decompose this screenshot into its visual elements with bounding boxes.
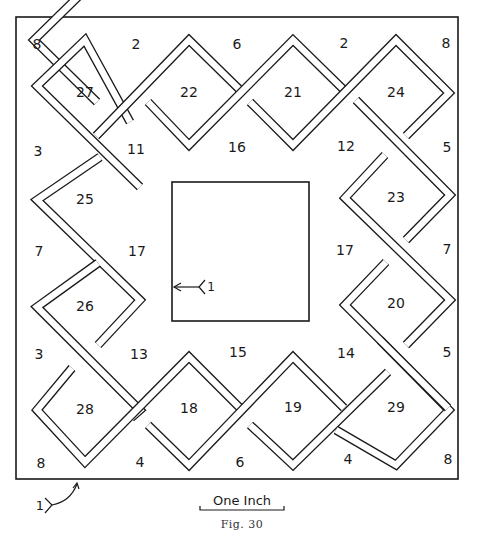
diamond-label: 29 [387,399,405,415]
region-label: 11 [127,141,145,157]
region-label: 14 [337,345,355,361]
maze-figure: 272221242526282320291819 826283111612571… [0,0,483,542]
region-label: 17 [336,242,354,258]
region-label: 8 [33,36,42,52]
diamond-labels: 272221242526282320291819 [76,84,405,417]
region-label: 13 [130,346,148,362]
region-label: 7 [35,243,44,259]
region-label: 7 [443,241,452,257]
region-label: 8 [444,451,453,467]
goal-arrow-icon [174,280,205,294]
region-label: 15 [229,344,247,360]
region-label: 6 [236,454,245,470]
central-square [172,182,309,321]
region-label: 5 [443,139,452,155]
entrance-marker-label: 1 [36,498,44,513]
diamond-label: 22 [180,84,198,100]
region-label: 4 [344,451,353,467]
diamond-label: 24 [387,84,405,100]
diamond-label: 27 [76,84,94,100]
region-label: 2 [132,36,141,52]
region-label: 3 [34,143,43,159]
region-label: 6 [233,36,242,52]
diamond-label: 21 [284,84,302,100]
scale-bar-label: One Inch [213,493,271,508]
hedge-strands [34,0,450,465]
region-label: 4 [136,454,145,470]
diamond-label: 19 [284,399,302,415]
goal-marker-label: 1 [207,280,215,294]
figure-caption: Fig. 30 [221,518,264,531]
diamond-label: 26 [76,298,94,314]
region-label: 3 [35,346,44,362]
region-label: 12 [337,138,355,154]
diamond-label: 25 [76,191,94,207]
diamond-label: 28 [76,401,94,417]
region-label: 17 [128,243,146,259]
region-label: 16 [228,139,246,155]
region-label: 8 [442,35,451,51]
region-label: 8 [37,455,46,471]
diamond-label: 20 [387,295,405,311]
diamond-label: 18 [180,400,198,416]
region-label: 2 [340,35,349,51]
entrance-arrow-icon [45,483,79,513]
diamond-label: 23 [387,189,405,205]
region-label: 5 [443,344,452,360]
